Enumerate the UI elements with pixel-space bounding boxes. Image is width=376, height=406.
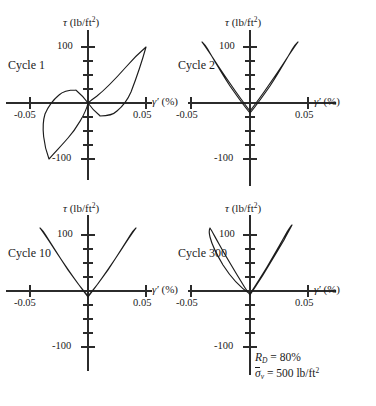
panel-label-cycle-300: Cycle 300: [178, 247, 227, 259]
x-tick-label-005: 0.05: [295, 298, 313, 309]
x-axis-title: γ′ (%): [314, 96, 340, 107]
x-tick-label-005: 0.05: [133, 298, 151, 309]
x-tick-label-neg005: -0.05: [14, 298, 36, 309]
y-tick-label-100: 100: [219, 229, 235, 240]
panel-label-cycle-1: Cycle 1: [8, 59, 45, 71]
hysteresis-figure: τ (lb/ft2) γ′ (%) 100 -100 -0.05 0.05 Cy…: [0, 0, 376, 406]
y-tick-label-neg100: -100: [214, 153, 233, 164]
x-tick-label-neg005: -0.05: [14, 110, 36, 121]
y-tick-label-100: 100: [219, 41, 235, 52]
y-axis-title: τ (lb/ft2): [225, 202, 261, 214]
x-tick-label-005: 0.05: [295, 110, 313, 121]
test-conditions-annotation: RD = 80% σv = 500 lb/ft2: [255, 352, 319, 384]
x-tick-label-005: 0.05: [133, 110, 151, 121]
x-tick-label-neg005: -0.05: [176, 298, 198, 309]
sigma-overbar: σ: [255, 368, 261, 380]
panel-cycle-10: τ (lb/ft2) γ′ (%) 100 -100 -0.05 0.05 Cy…: [0, 203, 188, 406]
y-tick-label-100: 100: [57, 229, 73, 240]
y-tick-label-neg100: -100: [52, 341, 71, 352]
panel-cycle-1: τ (lb/ft2) γ′ (%) 100 -100 -0.05 0.05 Cy…: [0, 0, 188, 203]
x-axis-title: γ′ (%): [314, 284, 340, 295]
x-tick-label-neg005: -0.05: [176, 110, 198, 121]
panel-cycle-2: τ (lb/ft2) γ′ (%) 100 -100 -0.05 0.05 Cy…: [188, 0, 376, 203]
y-tick-label-100: 100: [57, 41, 73, 52]
y-tick-label-neg100: -100: [52, 153, 71, 164]
panel-label-cycle-2: Cycle 2: [178, 59, 215, 71]
relative-density-note: RD = 80%: [255, 352, 319, 364]
x-axis-title: γ′ (%): [152, 96, 178, 107]
plot-cycle-2: [188, 0, 376, 203]
panel-label-cycle-10: Cycle 10: [8, 247, 51, 259]
y-axis-title: τ (lb/ft2): [63, 202, 99, 214]
y-axis-title: τ (lb/ft2): [225, 16, 261, 28]
y-tick-label-neg100: -100: [214, 341, 233, 352]
y-axis-title: τ (lb/ft2): [63, 16, 99, 28]
x-axis-title: γ′ (%): [152, 284, 178, 295]
vertical-stress-note: σv = 500 lb/ft2: [255, 367, 319, 380]
